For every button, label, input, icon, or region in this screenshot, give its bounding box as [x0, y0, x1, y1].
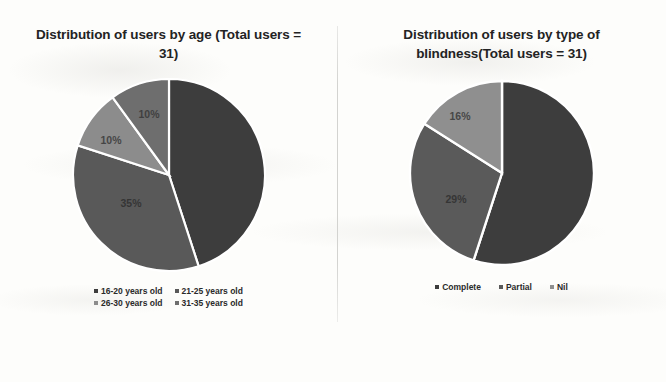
legend-row: 26-30 years old 31-35 years old [44, 298, 294, 308]
legend-swatch-icon [550, 285, 554, 289]
legend-blindness: Complete Partial Nil [426, 281, 577, 293]
legend-swatch-icon [175, 301, 179, 305]
legend-swatch-icon [499, 285, 503, 289]
pie-svg-age: 10% 10% 35% [63, 75, 275, 275]
legend-label: Complete [442, 282, 481, 292]
legend-label: 26-30 years old [101, 298, 162, 308]
legend-label: Partial [506, 282, 532, 292]
legend-item-nil[interactable]: Nil [550, 282, 568, 292]
pie-label-nil: 16% [449, 110, 471, 122]
legend-row: Complete Partial Nil [426, 282, 577, 292]
legend-row: 16-20 years old 21-25 years old [44, 286, 294, 296]
legend-age: 16-20 years old 21-25 years old 26-30 ye… [44, 285, 294, 309]
legend-item-16-20[interactable]: 16-20 years old [94, 286, 162, 296]
pie-label-partial: 29% [445, 193, 467, 205]
chart-title-blindness: Distribution of users by type of blindne… [373, 25, 631, 63]
chart-panel-blindness: Distribution of users by type of blindne… [337, 0, 666, 382]
legend-label: 16-20 years old [101, 286, 162, 296]
pie-label-31-35: 10% [138, 108, 160, 120]
legend-item-complete[interactable]: Complete [435, 282, 481, 292]
legend-item-partial[interactable]: Partial [499, 282, 532, 292]
legend-swatch-icon [94, 301, 98, 305]
chart-title-age: Distribution of users by age (Total user… [35, 25, 303, 63]
pie-chart-blindness: 16% 29% [404, 75, 600, 271]
legend-swatch-icon [175, 289, 179, 293]
legend-swatch-icon [94, 289, 98, 293]
legend-item-21-25[interactable]: 21-25 years old [175, 286, 243, 296]
legend-label: 31-35 years old [182, 298, 243, 308]
chart-panel-age: Distribution of users by age (Total user… [0, 0, 337, 382]
pie-label-26-30: 10% [100, 134, 122, 146]
legend-swatch-icon [435, 285, 439, 289]
pie-label-21-25: 35% [120, 197, 142, 209]
legend-label: Nil [557, 282, 568, 292]
legend-item-31-35[interactable]: 31-35 years old [175, 298, 243, 308]
legend-item-26-30[interactable]: 26-30 years old [94, 298, 162, 308]
pie-svg-blindness: 16% 29% [404, 75, 600, 271]
legend-label: 21-25 years old [182, 286, 243, 296]
pie-chart-age: 10% 10% 35% [63, 75, 275, 275]
